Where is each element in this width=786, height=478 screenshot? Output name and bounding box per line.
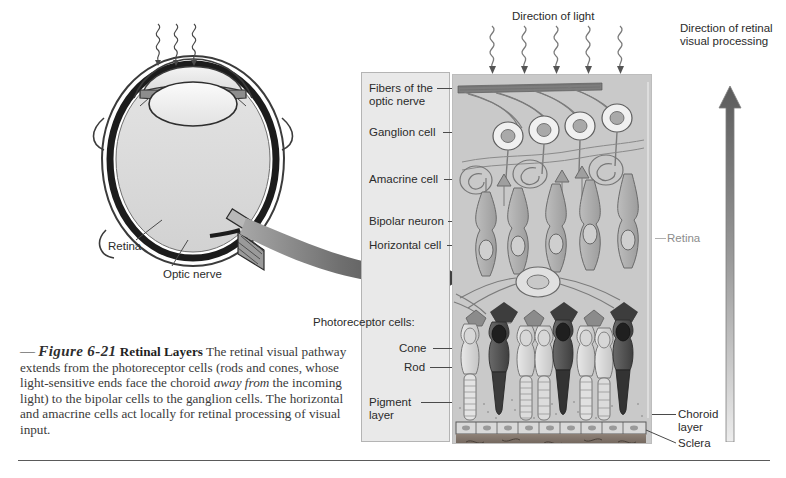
eye-label-retina-leader [130,218,164,244]
leader-sclera [644,426,678,446]
figure-caption: — Figure 6-21 Retinal Layers The retinal… [20,344,350,438]
callout-horizontal-cell: Horizontal cell [369,239,441,252]
panel-frame [452,74,652,444]
callout-ganglion-cell: Ganglion cell [369,126,435,139]
callout-rod: Rod [404,361,425,374]
figure-canvas: Retina Optic nerve Fibers of the optic n… [0,0,786,478]
figure-number: Figure 6-21 [38,343,116,359]
callout-cone: Cone [399,342,427,355]
eye-label-optic-nerve-leader [166,238,196,270]
retina-magnified-panel [452,74,652,444]
figure-title: Retinal Layers [120,344,203,359]
light-rays-panel-icon [484,24,644,74]
callout-pigment-layer: Pigment layer [369,396,411,422]
callout-sclera: Sclera [678,437,711,450]
callout-amacrine-cell: Amacrine cell [369,173,438,186]
callout-fibers-of-optic-nerve: Fibers of the optic nerve [369,82,433,108]
caption-dash: — [20,343,35,359]
callout-photoreceptor-cells-header: Photoreceptor cells: [313,316,415,329]
page-rule [18,460,770,461]
leader-choroid-layer [652,414,676,415]
leader-panel-retina [655,238,666,239]
callout-choroid-layer: Choroid layer [678,408,718,434]
caption-emphasis: away from [214,375,270,390]
direction-of-light-label: Direction of light [512,10,594,23]
callout-bipolar-neuron: Bipolar neuron [369,215,444,228]
light-rays-eye-icon [148,22,210,66]
lens [149,82,237,126]
retinal-processing-arrow [718,74,742,442]
direction-of-processing-label: Direction of retinal visual processing [680,22,773,48]
panel-retina-label: Retina [667,232,700,245]
